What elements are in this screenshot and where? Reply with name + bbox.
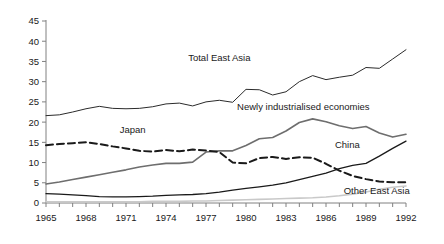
y-tick-label: 10	[28, 157, 39, 168]
y-tick-label: 25	[28, 96, 39, 107]
x-tick-label: 1974	[155, 212, 176, 223]
x-tick-label: 1983	[275, 212, 296, 223]
x-tick-label: 1965	[35, 212, 56, 223]
series-label: Total East Asia	[188, 52, 251, 63]
y-tick-label: 5	[34, 177, 39, 188]
series-label: Other East Asia	[344, 185, 411, 196]
chart-background	[0, 0, 444, 244]
y-tick-label: 45	[28, 15, 39, 26]
line-chart: 051015202530354045 196519681971197419771…	[0, 0, 444, 244]
y-tick-label: 15	[28, 137, 39, 148]
x-tick-label: 1971	[115, 212, 136, 223]
x-tick-label: 1989	[355, 212, 376, 223]
x-tick-label: 1992	[395, 212, 416, 223]
y-tick-label: 35	[28, 56, 39, 67]
y-tick-label: 40	[28, 36, 39, 47]
chart-canvas: 051015202530354045 196519681971197419771…	[0, 0, 444, 244]
x-tick-label: 1986	[315, 212, 336, 223]
x-tick-label: 1980	[235, 212, 256, 223]
series-label: Japan	[120, 124, 146, 135]
y-tick-label: 20	[28, 117, 39, 128]
x-tick-label: 1977	[195, 212, 216, 223]
x-tick-label: 1968	[75, 212, 96, 223]
y-tick-label: 30	[28, 76, 39, 87]
y-tick-label: 0	[34, 197, 39, 208]
series-label: Newly industrialised economies	[237, 101, 370, 112]
series-label: China	[335, 139, 361, 150]
